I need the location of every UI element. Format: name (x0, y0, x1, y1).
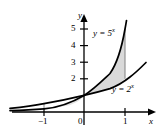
y-axis-label: y (78, 11, 82, 20)
curve-label-2-to-the-x: y = 2x (112, 83, 134, 94)
y-axis-tick-label-2: 2 (71, 74, 76, 83)
y-axis-tick-label-4: 4 (71, 41, 76, 50)
y-axis-tick-label-5: 5 (71, 24, 76, 33)
curve-label-5-to-the-x: y = 5x (93, 27, 115, 38)
curve-label-2-base: y = 2 (112, 84, 131, 94)
x-axis-tick-label-0: 0 (78, 117, 83, 126)
curve-label-5-exponent: x (112, 26, 115, 33)
y-axis-tick-label-3: 3 (71, 58, 76, 67)
x-axis-tick-label-negative-1: −1 (38, 117, 48, 126)
x-axis-arrowhead (148, 108, 156, 115)
x-axis-label: x (149, 117, 153, 126)
x-axis-tick-label-1: 1 (123, 117, 128, 126)
curve-label-5-base: y = 5 (93, 28, 112, 38)
exponential-functions-figure: 5 4 3 2 −1 0 1 y x y = 5x y = 2x (0, 0, 162, 136)
curve-label-2-exponent: x (131, 82, 134, 89)
